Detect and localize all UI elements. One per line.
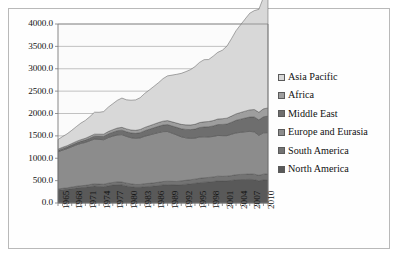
x-tick-label: 1968 xyxy=(75,191,84,209)
x-tick-label: 1998 xyxy=(212,191,221,209)
x-tick-label: 1974 xyxy=(103,191,112,209)
x-tick-label: 1971 xyxy=(89,191,98,209)
y-tick-label: 3500.0 xyxy=(28,42,53,51)
legend-swatch-icon xyxy=(278,92,285,99)
legend-item-middle-east[interactable]: Middle East xyxy=(278,105,396,123)
legend-label: Asia Pacific xyxy=(288,72,338,82)
legend-swatch-icon xyxy=(278,110,285,117)
legend-swatch-icon xyxy=(278,166,285,173)
x-tick-label: 1965 xyxy=(62,191,71,209)
legend-label: Middle East xyxy=(288,109,338,119)
y-tick-label: 3000.0 xyxy=(28,64,53,73)
legend-label: Europe and Eurasia xyxy=(288,127,368,137)
y-tick-label: 0.0 xyxy=(42,198,53,207)
legend-item-africa[interactable]: Africa xyxy=(278,86,396,104)
y-tick-label: 1000.0 xyxy=(28,154,53,163)
legend-item-europe-and-eurasia[interactable]: Europe and Eurasia xyxy=(278,123,396,141)
x-tick-label: 1995 xyxy=(199,191,208,209)
x-tick-label: 1980 xyxy=(130,191,139,209)
x-tick-label: 2007 xyxy=(253,191,262,209)
y-tick-label: 1500.0 xyxy=(28,131,53,140)
x-tick-label: 1992 xyxy=(185,191,194,209)
x-tick-label: 1983 xyxy=(144,191,153,209)
x-tick-label: 1977 xyxy=(116,191,125,209)
y-tick-label: 4000.0 xyxy=(28,19,53,28)
legend-swatch-icon xyxy=(278,74,285,81)
x-tick-label: 2010 xyxy=(267,191,276,209)
y-tick-label: 2500.0 xyxy=(28,87,53,96)
legend-swatch-icon xyxy=(278,147,285,154)
x-tick-label: 2001 xyxy=(226,191,235,209)
legend-item-north-america[interactable]: North America xyxy=(278,160,396,178)
chart-legend: Asia PacificAfricaMiddle EastEurope and … xyxy=(278,68,396,178)
legend-label: South America xyxy=(288,146,349,156)
x-tick-label: 2004 xyxy=(240,191,249,209)
legend-label: Africa xyxy=(288,90,314,100)
legend-swatch-icon xyxy=(278,129,285,136)
legend-item-asia-pacific[interactable]: Asia Pacific xyxy=(278,68,396,86)
x-tick-label: 1989 xyxy=(171,191,180,209)
legend-label: North America xyxy=(288,164,349,174)
x-tick-label: 1986 xyxy=(157,191,166,209)
y-tick-label: 500.0 xyxy=(33,176,53,185)
y-tick-label: 2000.0 xyxy=(28,109,53,118)
legend-item-south-america[interactable]: South America xyxy=(278,142,396,160)
